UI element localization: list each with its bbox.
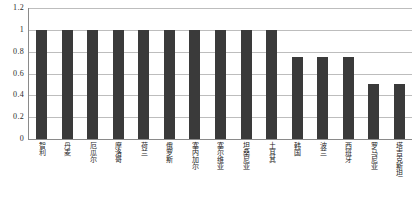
x-axis-label-slot: 塞内加尔 bbox=[182, 142, 208, 200]
x-axis-label-slot: 西班牙 bbox=[335, 142, 361, 200]
x-axis-label-slot: 厄瓜尔 bbox=[80, 142, 106, 200]
x-axis-tick-label: 丹麦 bbox=[63, 142, 71, 156]
y-axis: 00.20.40.60.811.2 bbox=[0, 0, 28, 142]
bar-chart: 00.20.40.60.811.2 智利丹麦厄瓜尔摩洛哥荷兰俄罗斯塞内加尔塞尔维… bbox=[0, 0, 420, 202]
bar[interactable] bbox=[292, 57, 303, 139]
x-axis-tick-label: 罗马尼亚 bbox=[370, 142, 378, 170]
x-axis-label-slot: 罗马尼亚 bbox=[361, 142, 387, 200]
x-axis-label-slot: 土耳其 bbox=[259, 142, 285, 200]
x-axis-tick-label: 波兰 bbox=[319, 142, 327, 156]
x-axis-line bbox=[28, 139, 412, 140]
y-axis-tick-label: 0.2 bbox=[13, 113, 24, 121]
x-axis-tick-label: 荷兰 bbox=[140, 142, 148, 156]
x-axis-tick-label: 厄瓜尔 bbox=[89, 142, 97, 163]
x-axis-label-slot: 荷兰 bbox=[131, 142, 157, 200]
bar[interactable] bbox=[394, 84, 405, 139]
x-axis-label-slot: 俄罗斯 bbox=[157, 142, 183, 200]
x-axis-label-slot: 塔吉克斯坦 bbox=[386, 142, 412, 200]
bar-slot bbox=[182, 8, 208, 139]
bar[interactable] bbox=[113, 30, 124, 139]
x-axis-label-slot: 坦桑尼亚 bbox=[233, 142, 259, 200]
x-axis-tick-label: 塞内加尔 bbox=[191, 142, 199, 170]
x-axis: 智利丹麦厄瓜尔摩洛哥荷兰俄罗斯塞内加尔塞尔维亚坦桑尼亚土耳其韩国波兰西班牙罗马尼… bbox=[29, 142, 412, 200]
bar-slot bbox=[284, 8, 310, 139]
x-axis-tick-label: 塔吉克斯坦 bbox=[395, 142, 403, 177]
x-axis-label-slot: 塞尔维亚 bbox=[208, 142, 234, 200]
bar[interactable] bbox=[36, 30, 47, 139]
bar[interactable] bbox=[368, 84, 379, 139]
x-axis-tick-label: 智利 bbox=[38, 142, 46, 156]
y-axis-tick-label: 0.8 bbox=[13, 48, 24, 56]
x-axis-tick-label: 土耳其 bbox=[268, 142, 276, 163]
bar[interactable] bbox=[189, 30, 200, 139]
bar-slot bbox=[386, 8, 412, 139]
x-axis-tick-label: 摩洛哥 bbox=[114, 142, 122, 163]
y-axis-tick-label: 1.2 bbox=[13, 4, 24, 12]
bar-slot bbox=[335, 8, 361, 139]
x-axis-label-slot: 智利 bbox=[29, 142, 55, 200]
bar-slot bbox=[106, 8, 132, 139]
bar-slot bbox=[131, 8, 157, 139]
bar-slot bbox=[233, 8, 259, 139]
x-axis-tick-label: 俄罗斯 bbox=[165, 142, 173, 163]
x-axis-tick-label: 西班牙 bbox=[344, 142, 352, 163]
x-axis-tick-label: 韩国 bbox=[293, 142, 301, 156]
bar-slot bbox=[80, 8, 106, 139]
x-axis-label-slot: 丹麦 bbox=[55, 142, 81, 200]
x-axis-tick-label: 坦桑尼亚 bbox=[242, 142, 250, 170]
y-axis-tick-label: 0 bbox=[20, 135, 24, 143]
bar-slot bbox=[29, 8, 55, 139]
bar[interactable] bbox=[138, 30, 149, 139]
y-axis-tick-label: 0.6 bbox=[13, 70, 24, 78]
bar-slot bbox=[208, 8, 234, 139]
x-axis-label-slot: 摩洛哥 bbox=[106, 142, 132, 200]
bars-layer bbox=[29, 8, 412, 139]
y-axis-tick-label: 0.4 bbox=[13, 91, 24, 99]
bar[interactable] bbox=[215, 30, 226, 139]
bar[interactable] bbox=[266, 30, 277, 139]
y-axis-tick-label: 1 bbox=[20, 26, 24, 34]
bar[interactable] bbox=[343, 57, 354, 139]
bar[interactable] bbox=[241, 30, 252, 139]
bar[interactable] bbox=[62, 30, 73, 139]
x-axis-tick-label: 塞尔维亚 bbox=[216, 142, 224, 170]
bar-slot bbox=[55, 8, 81, 139]
bar[interactable] bbox=[317, 57, 328, 139]
bar-slot bbox=[157, 8, 183, 139]
bar[interactable] bbox=[164, 30, 175, 139]
x-axis-label-slot: 波兰 bbox=[310, 142, 336, 200]
bar[interactable] bbox=[87, 30, 98, 139]
bar-slot bbox=[259, 8, 285, 139]
x-axis-label-slot: 韩国 bbox=[284, 142, 310, 200]
bar-slot bbox=[361, 8, 387, 139]
bar-slot bbox=[310, 8, 336, 139]
